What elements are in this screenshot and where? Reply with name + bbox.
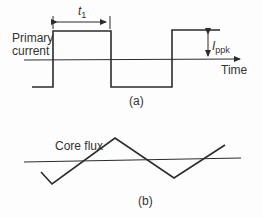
period-label: t1 [78, 5, 86, 22]
time-axis [24, 59, 240, 60]
core-flux-label: Core flux [55, 140, 103, 153]
amplitude-label: Ippk [212, 40, 230, 57]
panel-b-caption: (b) [138, 195, 153, 208]
flux-axis [24, 158, 241, 162]
time-axis-label: Time [221, 64, 247, 77]
primary-current-waveform [32, 30, 220, 87]
primary-current-label-line2: current [12, 45, 49, 58]
panel-a-caption: (a) [129, 95, 144, 108]
diagram: t1 Primary current Ippk Time (a) Core fl… [0, 0, 263, 218]
